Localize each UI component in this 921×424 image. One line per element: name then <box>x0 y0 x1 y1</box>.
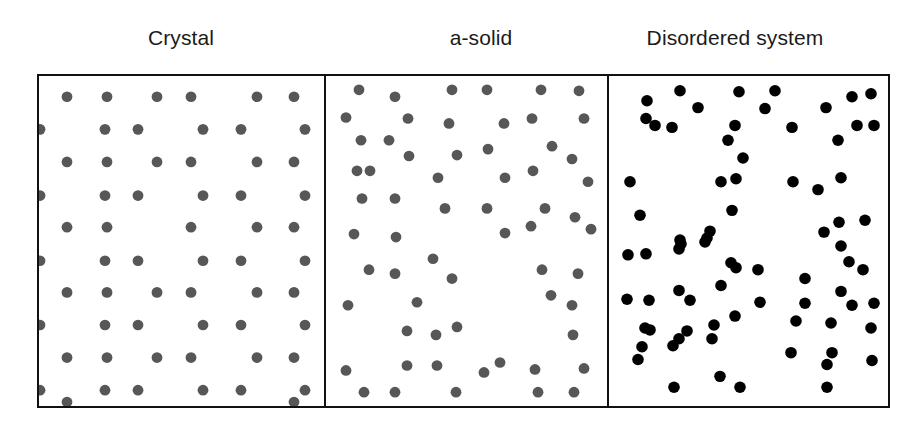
particle-dot <box>533 387 544 398</box>
particle-dot <box>586 224 597 235</box>
particle-dot <box>868 120 880 131</box>
particle-dot <box>846 299 858 310</box>
particle-dot <box>547 141 558 152</box>
particle-dot <box>833 216 845 227</box>
particle-dot <box>359 387 370 398</box>
particle-dot <box>62 287 73 298</box>
particle-dot <box>500 228 511 239</box>
particle-dot <box>483 144 494 155</box>
particle-dot <box>622 249 634 260</box>
particle-dot <box>786 122 798 133</box>
particle-dot <box>447 273 458 284</box>
particle-dot <box>404 151 415 162</box>
particle-dot <box>102 352 113 363</box>
panel-a-solid <box>324 76 609 406</box>
particle-dot <box>236 124 247 135</box>
particle-dot <box>692 102 704 113</box>
panel-disordered-system <box>607 76 894 406</box>
particle-dot <box>289 287 300 298</box>
particle-dot <box>769 85 781 96</box>
particle-dot <box>390 268 401 279</box>
particle-dot <box>624 176 636 187</box>
particle-dot <box>546 290 557 301</box>
particle-dot <box>341 112 352 123</box>
particle-dot <box>865 88 877 99</box>
particle-dot <box>528 166 539 177</box>
particle-dot <box>621 294 633 305</box>
particle-dot <box>354 84 365 95</box>
particle-dot <box>499 118 510 129</box>
particle-dot <box>198 320 209 331</box>
particle-dot <box>843 256 855 267</box>
particle-dot <box>100 385 111 396</box>
particle-dot <box>640 248 652 259</box>
particle-dot <box>857 264 869 275</box>
particle-dot <box>186 352 197 363</box>
particle-dot <box>62 352 73 363</box>
particle-dot <box>357 193 368 204</box>
particle-dot <box>349 229 360 240</box>
particle-dot <box>39 190 45 201</box>
panel-label-crystal: Crystal <box>148 26 214 50</box>
particle-dot <box>252 287 263 298</box>
particle-dot <box>530 364 541 375</box>
particle-dot <box>252 352 263 363</box>
panel-label-disordered-system: Disordered system <box>647 26 824 50</box>
particle-dot <box>390 193 401 204</box>
particle-dot <box>39 385 45 396</box>
particle-dot <box>403 113 414 124</box>
particle-dot <box>835 240 847 251</box>
particle-dot <box>451 387 462 398</box>
particle-dot <box>100 190 111 201</box>
particle-dot <box>730 173 742 184</box>
particle-dot <box>482 84 493 95</box>
particle-dot <box>39 124 45 135</box>
particle-scatter-crystal <box>39 76 324 406</box>
particle-dot <box>729 120 741 131</box>
particle-dot <box>701 232 713 243</box>
particle-dot <box>812 184 824 195</box>
particle-dot <box>133 320 144 331</box>
particle-dot <box>452 322 463 333</box>
particle-dot <box>152 91 163 102</box>
particle-dot <box>236 385 247 396</box>
particle-dot <box>289 222 300 233</box>
particle-dot <box>300 255 311 266</box>
particle-dot <box>198 255 209 266</box>
particle-dot <box>536 84 547 95</box>
particle-dot <box>674 85 686 96</box>
particle-dot <box>666 122 678 133</box>
particle-dot <box>440 203 451 214</box>
particle-dot <box>452 150 463 161</box>
particle-dot <box>62 91 73 102</box>
particle-dot <box>759 103 771 114</box>
particle-dot <box>289 397 300 406</box>
particle-dot <box>390 91 401 102</box>
particle-dot <box>752 264 764 275</box>
particle-dot <box>799 298 811 309</box>
particle-dot <box>62 222 73 233</box>
particle-dot <box>444 118 455 129</box>
particle-dot <box>673 285 685 296</box>
particle-dot <box>715 176 727 187</box>
particle-dot <box>859 215 871 226</box>
particle-dot <box>152 157 163 168</box>
panels-frame <box>37 74 890 408</box>
particle-dot <box>432 360 443 371</box>
particle-dot <box>341 365 352 376</box>
particle-dot <box>433 172 444 183</box>
particle-dot <box>673 243 685 254</box>
particle-dot <box>152 287 163 298</box>
particle-dot <box>639 322 651 333</box>
particle-dot <box>570 212 581 223</box>
particle-dot <box>186 287 197 298</box>
particle-dot <box>668 381 680 392</box>
particle-dot <box>100 320 111 331</box>
particle-dot <box>821 381 833 392</box>
particle-dot <box>737 152 749 163</box>
particle-dot <box>649 120 661 131</box>
particle-dot <box>715 280 727 291</box>
particle-dot <box>787 176 799 187</box>
particle-dot <box>300 124 311 135</box>
particle-dot <box>152 352 163 363</box>
